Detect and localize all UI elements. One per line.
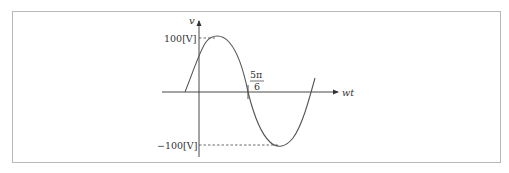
- zero-crossing-numerator: 5π: [250, 69, 262, 80]
- max-value-label: 100[V]: [164, 33, 196, 44]
- sine-curve: [185, 36, 315, 146]
- min-value-label: −100[V]: [157, 140, 197, 151]
- wt-axis-label: wt: [342, 87, 354, 98]
- v-axis-label: v: [189, 15, 195, 26]
- waveform-diagram: v wt 100[V] −100[V] 5π 6: [0, 0, 509, 173]
- zero-crossing-denominator: 6: [254, 81, 260, 92]
